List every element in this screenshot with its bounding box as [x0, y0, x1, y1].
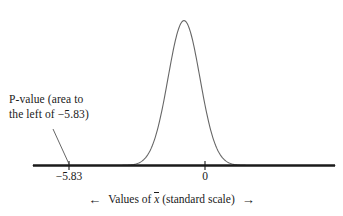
pvalue-annotation-line-2: the left of −5.83): [9, 107, 129, 122]
x-axis-title-prefix: Values of: [108, 193, 151, 205]
arrow-left-icon: ←: [88, 192, 101, 207]
x-axis-title: ←Values of x (standard scale)→: [0, 192, 343, 208]
xbar-symbol: x: [154, 193, 159, 205]
tick-label-zero: 0: [192, 170, 218, 182]
x-axis-title-suffix: (standard scale): [162, 193, 234, 205]
arrow-right-icon: →: [242, 192, 255, 207]
tick-label-neg583: −5.83: [46, 170, 92, 182]
annotation-leader-line: [53, 129, 69, 164]
pvalue-annotation: P-value (area to the left of −5.83): [9, 92, 129, 122]
pvalue-normal-curve-figure: P-value (area to the left of −5.83) −5.8…: [0, 0, 343, 216]
pvalue-annotation-line-1: P-value (area to: [9, 92, 129, 107]
